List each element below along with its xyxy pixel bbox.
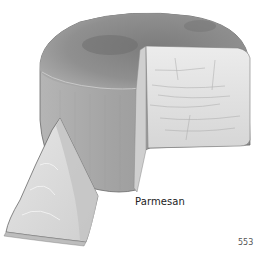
caption: Parmesan xyxy=(135,196,185,207)
page-number: 553 xyxy=(238,238,253,247)
parmesan-illustration xyxy=(0,0,256,253)
